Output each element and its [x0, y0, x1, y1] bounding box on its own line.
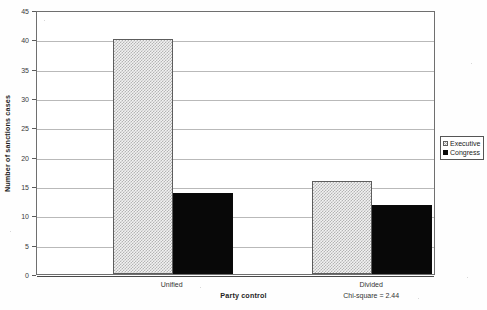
x-axis-label-unified: Unified — [161, 281, 183, 289]
y-axis-tick-label: 15 — [21, 184, 29, 191]
scan-speckle — [418, 298, 419, 299]
x-axis-label-divided: Divided — [359, 281, 382, 289]
scan-speckle — [44, 20, 45, 21]
gridline — [37, 71, 434, 72]
plot-area — [36, 11, 435, 275]
gridline — [37, 100, 434, 101]
bar-unified-executive[interactable] — [113, 39, 173, 274]
legend-label: Congress — [450, 149, 480, 157]
legend-item-congress[interactable]: Congress — [443, 148, 480, 157]
y-axis-tick-label: 20 — [21, 154, 29, 161]
gridline — [37, 188, 434, 189]
gridline — [37, 41, 434, 42]
scan-speckle — [200, 287, 201, 288]
gridline — [37, 159, 434, 160]
legend-item-executive[interactable]: Executive — [443, 139, 480, 148]
bar-divided-congress[interactable] — [372, 205, 432, 274]
bar-unified-congress[interactable] — [173, 193, 233, 274]
legend-swatch-executive-icon — [443, 141, 448, 146]
scan-speckle — [10, 231, 11, 232]
y-axis-tick-label: 10 — [21, 213, 29, 220]
scan-speckle — [459, 150, 460, 151]
scan-speckle — [467, 277, 468, 278]
bar-divided-executive[interactable] — [312, 181, 372, 274]
y-axis-tick-label: 45 — [21, 8, 29, 15]
gridline — [37, 276, 434, 277]
chart-legend: ExecutiveCongress — [440, 136, 484, 160]
y-axis: 051015202530354045 — [0, 11, 36, 275]
y-axis-tick-label: 30 — [21, 96, 29, 103]
y-axis-tick-label: 40 — [21, 37, 29, 44]
gridline — [37, 129, 434, 130]
x-axis-title: Party control — [0, 291, 487, 300]
y-axis-tick-label: 35 — [21, 66, 29, 73]
y-axis-tick-label: 5 — [25, 242, 29, 249]
legend-swatch-congress-icon — [443, 150, 448, 155]
y-axis-tick-mark — [32, 275, 36, 276]
y-axis-tick-label: 25 — [21, 125, 29, 132]
y-axis-tick-label: 0 — [25, 272, 29, 279]
scan-speckle — [471, 63, 472, 64]
legend-label: Executive — [450, 140, 480, 148]
chart-figure: Number of sanctions cases 05101520253035… — [0, 0, 487, 310]
